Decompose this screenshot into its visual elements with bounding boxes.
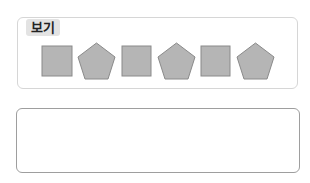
square-shape-3 <box>201 46 230 76</box>
pentagon-shape-3 <box>237 43 274 79</box>
pentagon-shape-2 <box>158 43 195 79</box>
square-shape-2 <box>122 46 151 76</box>
pentagon-shape-1 <box>78 43 115 79</box>
square-shape-1 <box>42 46 72 76</box>
answer-box[interactable] <box>16 108 300 173</box>
